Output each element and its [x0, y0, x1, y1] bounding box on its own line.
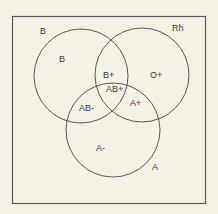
- set-label-b: B: [40, 26, 46, 36]
- region-label-ab-neg: AB-: [79, 103, 94, 113]
- region-label-ab-pos: AB+: [106, 84, 123, 94]
- region-label-a-neg: A-: [96, 143, 105, 153]
- region-label-a-pos: A+: [130, 98, 141, 108]
- region-label-b-pos: B+: [103, 70, 114, 80]
- venn-diagram: B Rh A B B+ O+ AB+ AB- A+ A-: [0, 0, 218, 214]
- set-a-circle: [66, 83, 160, 177]
- diagram-frame: [13, 17, 206, 204]
- region-label-b-only: B: [59, 54, 65, 64]
- region-label-o-pos: O+: [150, 70, 162, 80]
- set-label-rh: Rh: [172, 23, 184, 33]
- set-label-a: A: [152, 162, 158, 172]
